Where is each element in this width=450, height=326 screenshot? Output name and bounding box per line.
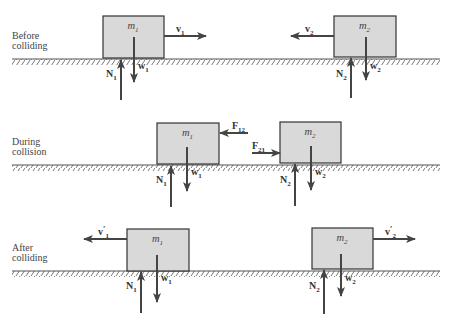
block-m1: m1w1N1v1 — [103, 16, 206, 100]
velocity-label: v2 — [305, 23, 314, 37]
stage-during: Duringcollisionm1w1N1F12m2w2N2F21 — [12, 120, 440, 207]
stage-label: Duringcollision — [12, 136, 46, 157]
block-m2: m2w2N2v2 — [291, 16, 396, 98]
normal-force-label: N1 — [156, 174, 167, 188]
normal-force-label: N2 — [280, 174, 291, 188]
stage-label: Beforecolliding — [12, 30, 48, 51]
stage-after: Aftercollidingm1w1N1v′1m2w2N2v′2 — [12, 224, 440, 314]
block-m2: m2w2N2F21 — [252, 122, 341, 206]
ground-hatch — [12, 271, 440, 277]
normal-force-label: N1 — [126, 280, 137, 294]
block-m2: m2w2N2v′2 — [309, 224, 415, 314]
collision-force-label: F21 — [252, 140, 266, 154]
block-m1: m1w1N1F12 — [156, 120, 248, 207]
normal-force-label: N2 — [336, 68, 347, 82]
stage-label: Aftercolliding — [12, 242, 48, 263]
velocity-label: v1 — [176, 23, 185, 37]
velocity-label: v′1 — [98, 224, 110, 240]
normal-force-label: N1 — [106, 68, 117, 82]
block-m1: m1w1N1v′1 — [84, 224, 189, 313]
ground-hatch — [12, 165, 440, 171]
collision-force-label: F12 — [232, 120, 246, 134]
normal-force-label: N2 — [309, 280, 320, 294]
stage-before: Beforecollidingm1w1N1v1m2w2N2v2 — [12, 16, 440, 100]
collision-diagram: Beforecollidingm1w1N1v1m2w2N2v2Duringcol… — [0, 0, 450, 326]
velocity-label: v′2 — [385, 224, 397, 240]
